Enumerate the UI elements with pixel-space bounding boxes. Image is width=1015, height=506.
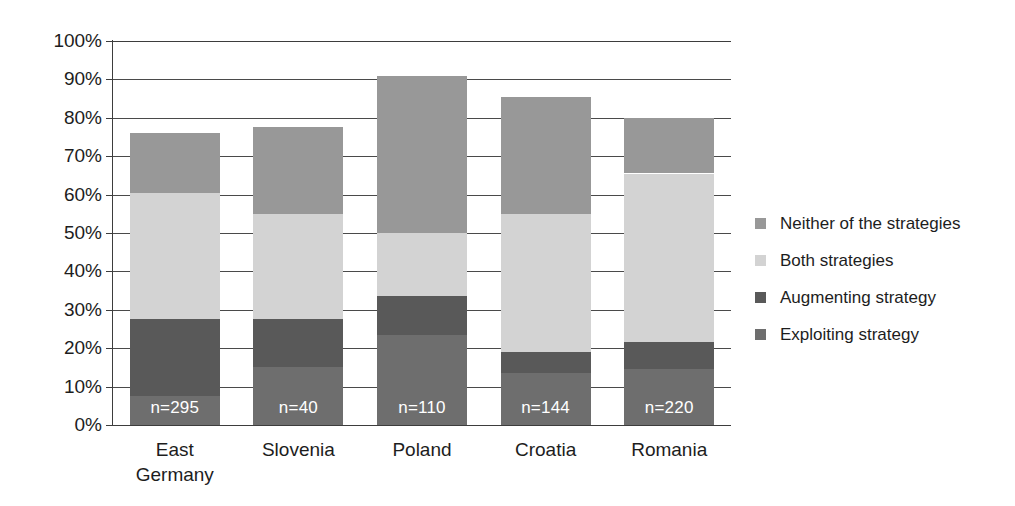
y-axis-tick-label: 10% — [36, 377, 102, 396]
y-axis-tick-mark — [106, 156, 113, 157]
bar-segment[interactable] — [253, 127, 343, 213]
bar-segment[interactable] — [130, 319, 220, 396]
y-axis-tick-label: 30% — [36, 300, 102, 319]
sample-size-label: n=220 — [624, 399, 714, 416]
gridline — [113, 425, 731, 426]
y-axis-tick-mark — [106, 195, 113, 196]
bar-segment[interactable] — [501, 97, 591, 214]
bar-segment[interactable] — [624, 342, 714, 369]
y-axis-tick-mark — [106, 387, 113, 388]
legend-item[interactable]: Augmenting strategy — [755, 279, 1005, 316]
y-axis-tick-label: 80% — [36, 108, 102, 127]
bar-segment[interactable] — [624, 174, 714, 343]
legend-swatch-icon — [755, 329, 766, 340]
legend-label: Exploiting strategy — [780, 326, 919, 343]
sample-size-label: n=295 — [130, 399, 220, 416]
gridline — [113, 41, 731, 42]
y-axis-tick-mark — [106, 271, 113, 272]
stacked-bar[interactable]: n=220 — [624, 118, 714, 425]
legend-swatch-icon — [755, 218, 766, 229]
legend-item[interactable]: Both strategies — [755, 242, 1005, 279]
legend-item[interactable]: Exploiting strategy — [755, 316, 1005, 353]
x-axis-label: EastGermany — [113, 437, 237, 487]
x-axis-label: Croatia — [484, 437, 608, 462]
x-axis-category-labels: EastGermanySloveniaPolandCroatiaRomania — [113, 437, 731, 499]
bar-segment[interactable] — [377, 296, 467, 334]
bar-segment[interactable] — [501, 214, 591, 352]
y-axis-tick-label: 40% — [36, 261, 102, 280]
stacked-bar[interactable]: n=295 — [130, 133, 220, 425]
stacked-bar[interactable]: n=40 — [253, 127, 343, 425]
sample-size-label: n=144 — [501, 399, 591, 416]
y-axis-tick-mark — [106, 233, 113, 234]
y-axis-tick-labels: 0%10%20%30%40%50%60%70%80%90%100% — [28, 0, 102, 506]
x-axis-label: Romania — [607, 437, 731, 462]
legend-swatch-icon — [755, 292, 766, 303]
y-axis-tick-label: 100% — [36, 31, 102, 50]
y-axis-tick-mark — [106, 41, 113, 42]
x-axis-label-line: East — [113, 437, 237, 462]
y-axis-tick-label: 50% — [36, 223, 102, 242]
bar-segment[interactable] — [624, 118, 714, 174]
chart-figure: 0%10%20%30%40%50%60%70%80%90%100% n=295n… — [0, 0, 1015, 506]
x-axis-label-line: Germany — [113, 462, 237, 487]
legend-label: Neither of the strategies — [780, 215, 960, 232]
y-axis-tick-label: 70% — [36, 146, 102, 165]
legend-label: Augmenting strategy — [780, 289, 936, 306]
y-axis-tick-label: 90% — [36, 69, 102, 88]
y-axis-tick-mark — [106, 310, 113, 311]
x-axis-label: Slovenia — [236, 437, 360, 462]
y-axis-tick-label: 0% — [36, 415, 102, 434]
bar-segment[interactable] — [130, 133, 220, 193]
y-axis-tick-mark — [106, 79, 113, 80]
x-axis-label-line: Romania — [607, 437, 731, 462]
legend-label: Both strategies — [780, 252, 893, 269]
bar-segment[interactable] — [377, 233, 467, 296]
x-axis-label-line: Slovenia — [236, 437, 360, 462]
stacked-bar[interactable]: n=110 — [377, 76, 467, 425]
x-axis-label-line: Croatia — [484, 437, 608, 462]
legend-item[interactable]: Neither of the strategies — [755, 205, 1005, 242]
sample-size-label: n=40 — [253, 399, 343, 416]
x-axis-label-line: Poland — [360, 437, 484, 462]
y-axis-tick-mark — [106, 118, 113, 119]
y-axis-tick-mark — [106, 425, 113, 426]
legend-swatch-icon — [755, 255, 766, 266]
x-axis-label: Poland — [360, 437, 484, 462]
y-axis-tick-mark — [106, 348, 113, 349]
bar-segment[interactable] — [253, 319, 343, 367]
bar-segment[interactable] — [377, 76, 467, 233]
bar-segment[interactable] — [253, 214, 343, 320]
chart-legend: Neither of the strategiesBoth strategies… — [755, 205, 1005, 353]
y-axis-tick-label: 60% — [36, 185, 102, 204]
plot-area: n=295n=40n=110n=144n=220 — [113, 41, 731, 425]
sample-size-label: n=110 — [377, 399, 467, 416]
bar-segment[interactable] — [501, 352, 591, 373]
y-axis-tick-label: 20% — [36, 338, 102, 357]
stacked-bar[interactable]: n=144 — [501, 97, 591, 425]
bar-segment[interactable] — [130, 193, 220, 320]
